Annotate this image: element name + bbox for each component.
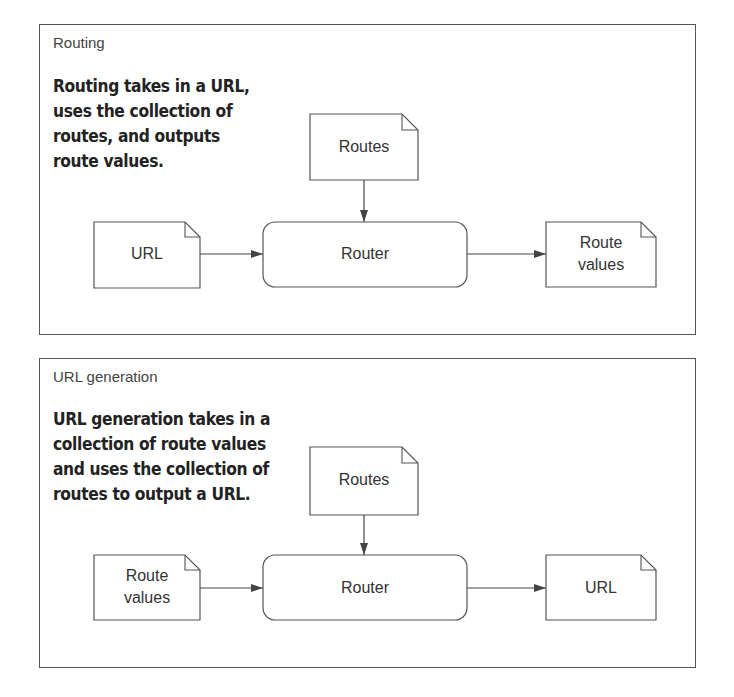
router-label: Router bbox=[263, 577, 467, 599]
routes-label: Routes bbox=[310, 469, 418, 491]
url-label: URL bbox=[546, 577, 656, 599]
route-values-label: Route values bbox=[94, 565, 200, 609]
